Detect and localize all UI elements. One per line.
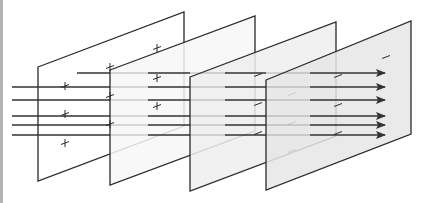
parallel-plates-diagram	[0, 0, 423, 203]
